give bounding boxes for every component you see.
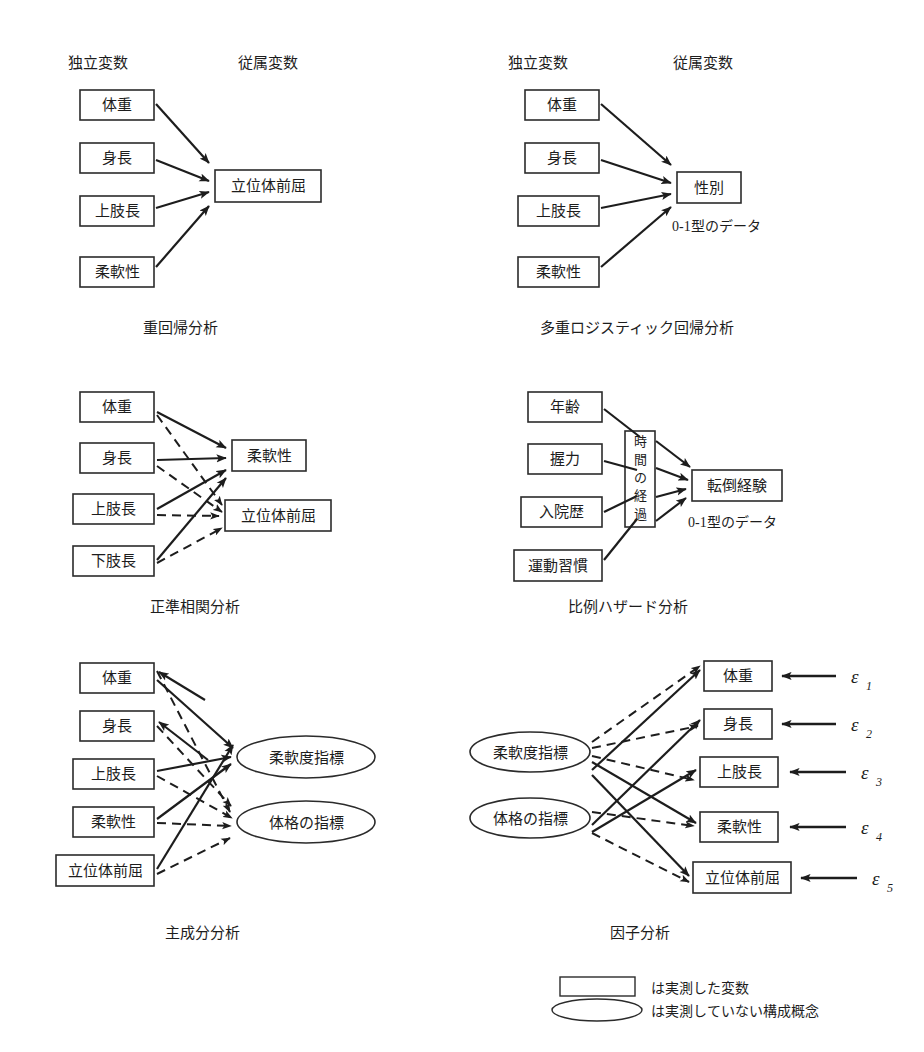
panel2-caption: 多重ロジスティック回帰分析 bbox=[540, 319, 734, 336]
panel1-label-dependent-0: 立位体前屈 bbox=[231, 178, 306, 194]
panel6-error-sub-4: 5 bbox=[887, 881, 893, 895]
panel1-arrow-1 bbox=[156, 160, 209, 181]
panel1-caption: 重回帰分析 bbox=[143, 319, 218, 336]
panel5-arrow-dashed-4 bbox=[157, 838, 230, 874]
panel6-error-sub-0: 1 bbox=[866, 679, 872, 693]
panel4-outflow-1 bbox=[656, 468, 688, 480]
panel3-arrow-dashed-3 bbox=[157, 528, 222, 563]
panel-multiple-logistic-regression: 独立変数 従属変数 体重 身長 上肢長 柔軟性 性別 0-1型のデータ 多重ロジ… bbox=[508, 55, 761, 336]
panel4-inflow-0 bbox=[604, 409, 640, 437]
legend-rectangle-icon bbox=[560, 977, 635, 996]
panel4-label-dependent-0: 転倒経験 bbox=[707, 478, 767, 494]
panel1-arrow-0 bbox=[156, 104, 209, 163]
panel6-label-observed-2: 上肢長 bbox=[717, 764, 762, 780]
panel2-header-left: 独立変数 bbox=[508, 55, 568, 71]
panel2-label-independent-3: 柔軟性 bbox=[536, 264, 581, 280]
panel2-label-dependent-0: 性別 bbox=[694, 180, 724, 196]
panel1-label-independent-3: 柔軟性 bbox=[95, 264, 140, 280]
panel6-error-sub-2: 3 bbox=[875, 775, 882, 789]
legend: は実測した変数 は実測していない構成概念 bbox=[552, 977, 819, 1021]
panel4-outflow-2 bbox=[656, 489, 686, 497]
panel-multiple-regression: 独立変数 従属変数 体重 身長 上肢長 柔軟性 立位体前屈 重回帰分析 bbox=[68, 55, 321, 336]
panel6-label-construct-0: 柔軟度指標 bbox=[493, 745, 568, 761]
panel3-label-independent-2: 上肢長 bbox=[91, 501, 136, 517]
panel6-caption: 因子分析 bbox=[610, 925, 670, 941]
panel3-label-independent-1: 身長 bbox=[102, 450, 132, 466]
panel5-label-observed-4: 立位体前屈 bbox=[68, 863, 143, 879]
panel5-caption: 主成分分析 bbox=[165, 925, 240, 941]
panel6-arrow-dashed-0 bbox=[592, 666, 700, 742]
panel4-mediator-char-3: 経 bbox=[634, 488, 647, 503]
panel4-mediator-char-1: 間 bbox=[634, 452, 647, 467]
panel6-arrow-dashed-4 bbox=[592, 833, 689, 882]
panel4-outflow-3 bbox=[656, 498, 686, 521]
panel4-caption: 比例ハザード分析 bbox=[568, 599, 688, 615]
diagram-svg: 独立変数 従属変数 体重 身長 上肢長 柔軟性 立位体前屈 重回帰分析 独立変数… bbox=[0, 0, 924, 1052]
panel5-arrow-back-0 bbox=[159, 672, 205, 700]
panel6-arrow-solid-0 bbox=[592, 670, 700, 770]
panel4-note: 0-1型のデータ bbox=[688, 514, 777, 530]
panel6-arrow-solid-2 bbox=[592, 770, 696, 832]
legend-label-0: は実測した変数 bbox=[651, 980, 749, 996]
panel6-label-construct-1: 体格の指標 bbox=[493, 811, 568, 827]
panel5-label-construct-1: 体格の指標 bbox=[269, 815, 344, 831]
panel5-arrow-solid-2 bbox=[157, 757, 231, 771]
panel4-label-independent-0: 年齢 bbox=[550, 399, 580, 415]
panel6-error-symbol-2: ε bbox=[861, 762, 869, 783]
panel4-inflow-3 bbox=[604, 519, 637, 560]
panel5-label-construct-0: 柔軟度指標 bbox=[269, 750, 344, 766]
legend-ellipse-icon bbox=[552, 999, 642, 1021]
panel5-arrow-dashed-3 bbox=[157, 823, 231, 826]
panel5-label-observed-1: 身長 bbox=[102, 718, 132, 734]
panel1-header-right: 従属変数 bbox=[238, 55, 298, 71]
panel2-header-right: 従属変数 bbox=[673, 55, 733, 71]
panel3-caption: 正準相関分析 bbox=[150, 599, 240, 615]
panel2-arrow-3 bbox=[601, 207, 671, 267]
panel6-label-observed-1: 身長 bbox=[723, 716, 753, 732]
panel2-arrow-2 bbox=[601, 194, 671, 208]
legend-label-1: は実測していない構成概念 bbox=[651, 1003, 819, 1019]
panel-principal-component-analysis: 体重 身長 上肢長 柔軟性 立位体前屈 柔軟度指標 体格の指標 主成分分析 bbox=[56, 663, 375, 941]
panel6-error-sub-3: 4 bbox=[876, 830, 882, 844]
panel3-label-dependent-1: 立位体前屈 bbox=[241, 508, 316, 524]
panel5-label-observed-0: 体重 bbox=[102, 670, 132, 686]
panel3-arrow-dashed-2 bbox=[157, 515, 219, 516]
panel-canonical-correlation: 体重 身長 上肢長 下肢長 柔軟性 立位体前屈 正準相関分析 bbox=[73, 392, 331, 615]
figure-canvas: 独立変数 従属変数 体重 身長 上肢長 柔軟性 立位体前屈 重回帰分析 独立変数… bbox=[0, 0, 924, 1052]
panel2-label-independent-2: 上肢長 bbox=[536, 203, 581, 219]
panel1-label-independent-0: 体重 bbox=[102, 97, 132, 113]
panel1-arrow-3 bbox=[156, 206, 209, 267]
panel2-label-independent-1: 身長 bbox=[547, 150, 577, 166]
panel1-header-left: 独立変数 bbox=[68, 55, 128, 71]
panel5-label-observed-3: 柔軟性 bbox=[91, 814, 136, 830]
panel2-note: 0-1型のデータ bbox=[672, 218, 761, 234]
panel6-error-sub-1: 2 bbox=[866, 727, 872, 741]
panel6-error-symbol-0: ε bbox=[851, 666, 859, 687]
panel3-label-independent-3: 下肢長 bbox=[91, 553, 136, 569]
panel6-label-observed-3: 柔軟性 bbox=[717, 819, 762, 835]
panel3-arrow-dashed-1 bbox=[157, 466, 222, 512]
panel-proportional-hazards: 年齢 握力 入院歴 運動習慣 時 間 の 経 過 転倒経験 0-1型のデータ 比… bbox=[514, 392, 782, 615]
panel1-label-independent-2: 上肢長 bbox=[95, 203, 140, 219]
panel4-outflow-0 bbox=[656, 441, 690, 467]
panel2-arrow-0 bbox=[601, 104, 671, 165]
panel4-label-independent-3: 運動習慣 bbox=[528, 557, 588, 574]
panel1-label-independent-1: 身長 bbox=[102, 150, 132, 166]
panel4-mediator-char-2: の bbox=[634, 470, 647, 485]
panel3-arrow-solid-1 bbox=[157, 458, 226, 460]
panel1-arrow-2 bbox=[156, 192, 209, 208]
panel3-label-independent-0: 体重 bbox=[102, 399, 132, 415]
panel2-label-independent-0: 体重 bbox=[547, 97, 577, 113]
panel4-label-independent-2: 入院歴 bbox=[539, 503, 584, 520]
panel6-error-symbol-4: ε bbox=[872, 868, 880, 889]
panel6-error-symbol-3: ε bbox=[861, 817, 869, 838]
panel2-arrow-1 bbox=[601, 160, 671, 183]
panel6-error-symbol-1: ε bbox=[851, 714, 859, 735]
panel4-label-independent-1: 握力 bbox=[550, 451, 580, 467]
panel-factor-analysis: 柔軟度指標 体格の指標 体重 身長 上肢長 柔軟性 立位体前屈 ε 1 ε 2 bbox=[470, 661, 893, 941]
panel6-label-observed-0: 体重 bbox=[723, 668, 753, 684]
panel5-label-observed-2: 上肢長 bbox=[91, 766, 136, 782]
panel3-label-dependent-0: 柔軟性 bbox=[247, 448, 292, 464]
panel6-label-observed-4: 立位体前屈 bbox=[705, 870, 780, 886]
